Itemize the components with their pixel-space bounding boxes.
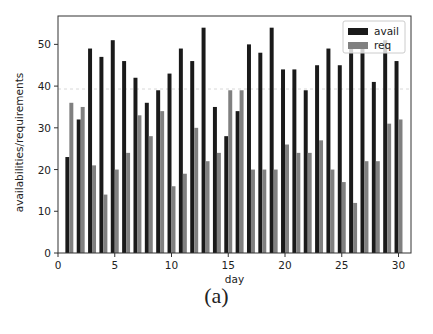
- y-tick-label: 40: [38, 80, 51, 92]
- legend-swatch-avail: [348, 28, 368, 35]
- bar-req: [92, 165, 96, 253]
- legend-label-req: req: [374, 39, 391, 51]
- bar-avail: [372, 82, 376, 253]
- legend: availreq: [343, 21, 405, 53]
- bar-avail: [304, 90, 308, 253]
- bar-avail: [190, 61, 194, 253]
- bar-req: [376, 161, 380, 253]
- bar-avail: [213, 107, 217, 253]
- x-tick-label: 20: [278, 259, 291, 271]
- x-tick-label: 5: [111, 259, 118, 271]
- bar-req: [194, 128, 198, 253]
- bar-req: [274, 170, 278, 253]
- bar-req: [296, 153, 300, 253]
- y-tick-label: 50: [38, 38, 51, 50]
- bar-req: [251, 170, 255, 253]
- bar-req: [115, 170, 119, 253]
- bar-req: [330, 170, 334, 253]
- bar-req: [103, 195, 107, 253]
- bar-req: [262, 170, 266, 253]
- bar-req: [172, 186, 176, 253]
- bar-avail: [122, 61, 126, 253]
- bar-avail: [145, 103, 149, 253]
- y-tick-label: 20: [38, 164, 51, 176]
- bar-req: [308, 153, 312, 253]
- x-tick-label: 0: [55, 259, 62, 271]
- bar-req: [206, 161, 210, 253]
- bar-avail: [360, 44, 364, 253]
- bar-req: [69, 103, 73, 253]
- x-tick-label: 10: [165, 259, 178, 271]
- bars: [65, 28, 402, 253]
- legend-label-avail: avail: [374, 25, 399, 37]
- bar-avail: [179, 49, 183, 253]
- bar-avail: [133, 78, 137, 253]
- bar-avail: [326, 49, 330, 253]
- bar-req: [399, 119, 403, 253]
- bar-req: [285, 145, 289, 253]
- x-axis-ticks: 051015202530: [55, 253, 406, 271]
- y-tick-label: 30: [38, 122, 51, 134]
- bar-avail: [281, 69, 285, 253]
- y-tick-label: 0: [44, 247, 51, 259]
- bar-avail: [202, 28, 206, 253]
- bar-avail: [88, 49, 92, 253]
- bar-req: [81, 107, 85, 253]
- bar-avail: [292, 69, 296, 253]
- bar-avail: [236, 111, 240, 253]
- bar-avail: [258, 53, 262, 253]
- bar-avail: [99, 57, 103, 253]
- bar-avail: [349, 44, 353, 253]
- bar-avail: [111, 40, 115, 253]
- bar-req: [387, 124, 391, 253]
- bar-avail: [77, 119, 81, 253]
- bar-avail: [383, 40, 387, 253]
- bar-avail: [224, 136, 228, 253]
- bar-avail: [168, 74, 172, 253]
- figure-caption: (a): [0, 283, 433, 309]
- bar-req: [217, 153, 221, 253]
- bar-avail: [156, 90, 160, 253]
- bar-avail: [65, 157, 69, 253]
- bar-avail: [395, 61, 399, 253]
- bar-avail: [338, 65, 342, 253]
- bar-req: [240, 90, 244, 253]
- bar-req: [160, 111, 164, 253]
- bar-req: [183, 174, 187, 253]
- x-tick-label: 30: [392, 259, 405, 271]
- y-axis-ticks: 01020304050: [38, 38, 58, 259]
- bar-req: [342, 182, 346, 253]
- bar-avail: [270, 28, 274, 253]
- bar-avail: [247, 44, 251, 253]
- bar-req: [364, 161, 368, 253]
- bar-req: [228, 90, 232, 253]
- legend-swatch-req: [348, 42, 368, 49]
- bar-req: [319, 140, 323, 253]
- bar-req: [137, 115, 141, 253]
- y-tick-label: 10: [38, 205, 51, 217]
- x-tick-label: 25: [335, 259, 348, 271]
- x-tick-label: 15: [222, 259, 235, 271]
- bar-req: [149, 136, 153, 253]
- bar-avail: [315, 65, 319, 253]
- bar-req: [353, 203, 357, 253]
- y-axis-label: availabilities/requirements: [13, 73, 25, 213]
- bar-req: [126, 153, 130, 253]
